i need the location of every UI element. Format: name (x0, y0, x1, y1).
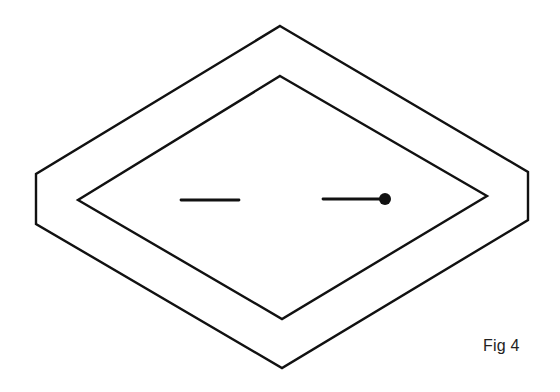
diagram-figure (0, 0, 560, 392)
dash-end-dot (379, 193, 391, 205)
figure-caption: Fig 4 (483, 337, 520, 355)
